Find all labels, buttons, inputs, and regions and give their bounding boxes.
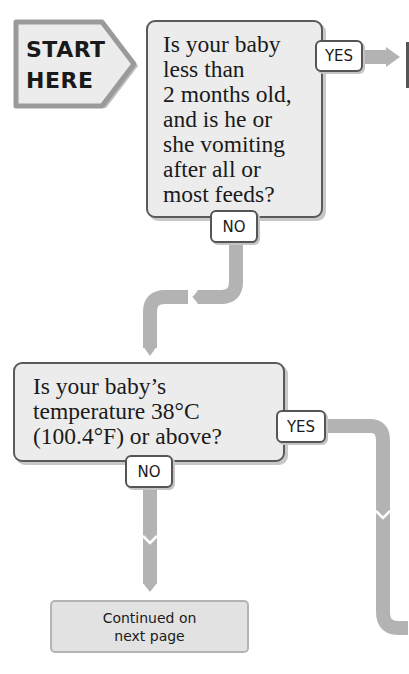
yes-path-q2	[326, 426, 408, 628]
question-line: and is he or	[163, 107, 313, 132]
question-line: temperature 38°C	[33, 399, 275, 424]
yes-tag-q2: YES	[276, 410, 326, 443]
question-line: most feeds?	[163, 182, 313, 207]
yes-arrow-q1	[362, 47, 400, 67]
start-label-line2: HERE	[26, 65, 106, 96]
no-tag-q1: NO	[210, 210, 258, 243]
start-label-line1: START	[26, 34, 106, 65]
yes-tag-q1: YES	[315, 40, 363, 72]
question-line: (100.4°F) or above?	[33, 424, 275, 449]
start-here-label: START HERE	[26, 34, 106, 96]
question-box-temperature: Is your baby’s temperature 38°C (100.4°F…	[13, 362, 285, 462]
question-line: 2 months old,	[163, 82, 313, 107]
question-line: she vomiting	[163, 132, 313, 157]
question-line: after all or	[163, 157, 313, 182]
continued-line2: next page	[52, 627, 247, 645]
down-arrow-icon	[143, 346, 157, 356]
right-arrow-icon	[386, 47, 400, 67]
question-line: less than	[163, 57, 313, 82]
question-box-age-vomiting: Is your baby less than 2 months old, and…	[146, 20, 323, 218]
no-tag-q2: NO	[125, 455, 173, 488]
no-path-q2	[143, 488, 157, 592]
question-line: Is your baby	[163, 32, 313, 57]
start-here-arrow: START HERE	[12, 18, 140, 110]
down-arrow-icon	[143, 583, 157, 592]
continued-next-page-box: Continued on next page	[50, 600, 249, 653]
question-line: Is your baby’s	[33, 374, 275, 399]
continued-line1: Continued on	[52, 609, 247, 627]
